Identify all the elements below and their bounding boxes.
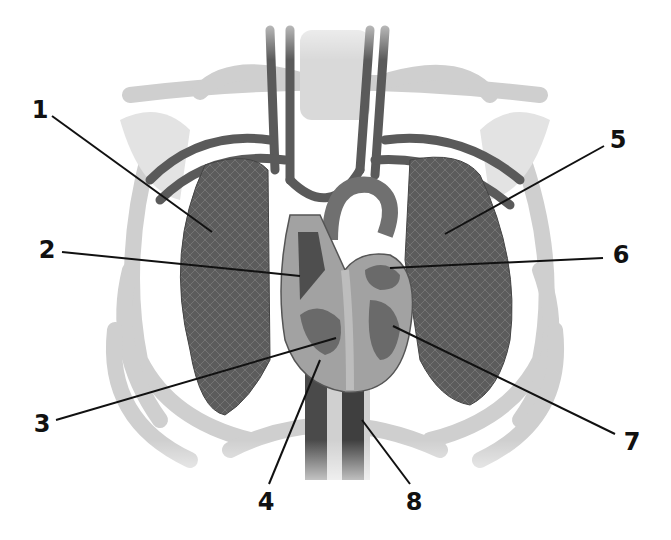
label-3: 3 [34, 412, 51, 436]
label-8: 8 [406, 490, 423, 514]
label-1: 1 [32, 98, 49, 122]
label-5: 5 [610, 128, 627, 152]
right-lung [180, 159, 270, 415]
label-7: 7 [624, 430, 641, 454]
anatomy-illustration [0, 0, 671, 540]
heart [281, 215, 413, 392]
label-4: 4 [258, 490, 275, 514]
label-6: 6 [613, 243, 630, 267]
label-2: 2 [39, 238, 56, 262]
anatomy-diagram: 12345678 [0, 0, 671, 540]
